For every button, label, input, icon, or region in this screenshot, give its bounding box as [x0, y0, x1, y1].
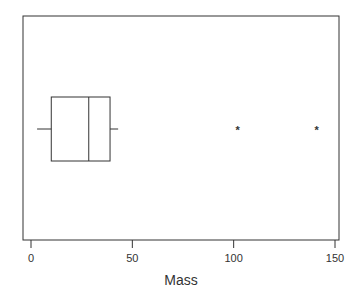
x-tick-label: 50 [126, 252, 138, 264]
x-axis-label: Mass [164, 272, 197, 288]
x-tick-label: 150 [326, 252, 344, 264]
x-axis: 050100150 [28, 240, 344, 264]
plot-frame [23, 16, 339, 240]
outlier-marker: * [236, 124, 241, 136]
x-tick-label: 0 [28, 252, 34, 264]
outlier-marker: * [315, 124, 320, 136]
boxplot-chart: ** 050100150 Mass [0, 0, 359, 297]
x-tick-label: 100 [224, 252, 242, 264]
